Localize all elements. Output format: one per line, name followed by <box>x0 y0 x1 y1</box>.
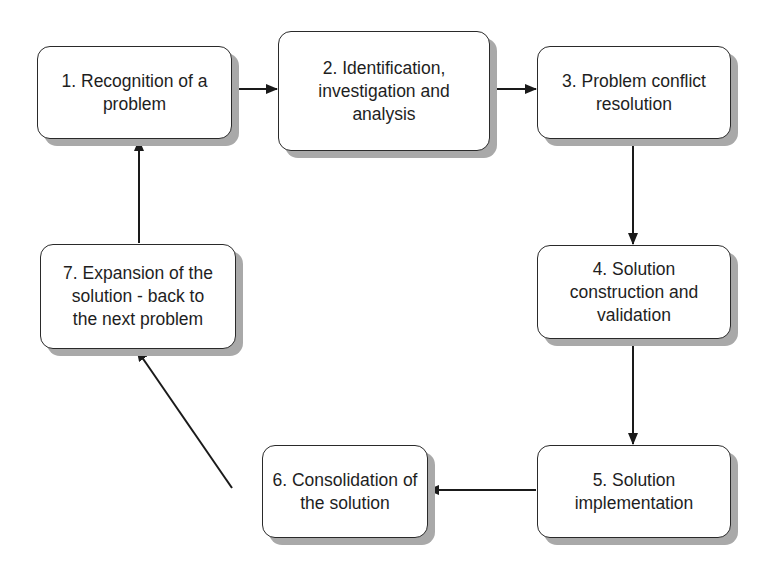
step-2-identification-box: 2. Identification, investigation and ana… <box>278 31 490 151</box>
step-7-expansion-box: 7. Expansion of the solution - back to t… <box>40 244 236 349</box>
step-1-recognition-box: 1. Recognition of a problem <box>37 46 232 139</box>
step-2-label: 2. Identification, investigation and ana… <box>318 57 449 126</box>
step-6-label: 6. Consolidation of the solution <box>273 469 418 515</box>
process-cycle-diagram: 1. Recognition of a problem 2. Identific… <box>0 0 767 565</box>
step-3-conflict-resolution-box: 3. Problem conflict resolution <box>537 46 731 139</box>
step-1-label: 1. Recognition of a problem <box>62 70 208 116</box>
step-7-label: 7. Expansion of the solution - back to t… <box>63 262 213 331</box>
step-4-solution-construction-box: 4. Solution construction and validation <box>537 245 731 339</box>
arrow-6-to-7 <box>137 350 232 488</box>
step-5-label: 5. Solution implementation <box>575 469 694 515</box>
step-5-implementation-box: 5. Solution implementation <box>537 445 731 538</box>
step-4-label: 4. Solution construction and validation <box>570 258 698 327</box>
step-6-consolidation-box: 6. Consolidation of the solution <box>262 445 428 538</box>
step-3-label: 3. Problem conflict resolution <box>562 70 706 116</box>
